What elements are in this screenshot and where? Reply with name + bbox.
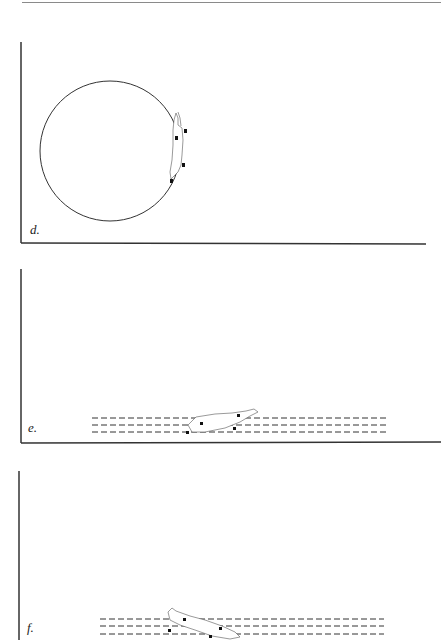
panel-e-label: e. xyxy=(28,420,37,436)
panel-d-frame xyxy=(21,42,426,244)
swimmer-figure-icon xyxy=(170,112,187,183)
panel-f-label: f. xyxy=(27,620,34,636)
panel-f: f. xyxy=(0,450,441,640)
panel-d-drawing xyxy=(0,0,441,250)
panel-f-drawing xyxy=(0,450,441,640)
swimmer-figure-icon xyxy=(186,409,258,434)
panel-e-drawing xyxy=(0,250,441,450)
panel-d: d. xyxy=(0,0,441,250)
circular-path xyxy=(40,81,180,221)
panel-e: e. xyxy=(0,250,441,450)
lane-lines xyxy=(100,619,384,634)
panel-d-label: d. xyxy=(30,222,40,238)
